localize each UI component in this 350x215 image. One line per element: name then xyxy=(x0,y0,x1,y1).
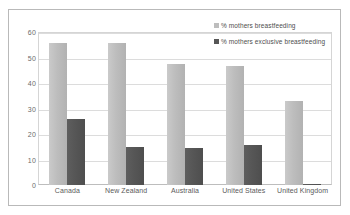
bar[interactable] xyxy=(167,64,185,185)
x-axis: CanadaNew ZealandAustraliaUnited StatesU… xyxy=(38,187,332,203)
x-axis-tick-label: United Kingdom xyxy=(277,187,328,194)
bar[interactable] xyxy=(108,43,126,185)
legend-swatch-icon-0 xyxy=(214,23,219,28)
y-axis-tick-label: 0 xyxy=(14,182,36,189)
x-axis-tick-label: United States xyxy=(222,187,265,194)
y-axis-tick-label: 20 xyxy=(14,131,36,138)
y-axis-tick-label: 50 xyxy=(14,54,36,61)
bar[interactable] xyxy=(49,43,67,185)
bar-group xyxy=(285,32,321,185)
y-axis-tick-label: 60 xyxy=(14,29,36,36)
bar-group xyxy=(226,32,262,185)
bar[interactable] xyxy=(67,119,85,185)
chart-legend: % mothers breastfeeding % mothers exclus… xyxy=(214,22,344,54)
bar[interactable] xyxy=(226,66,244,185)
legend-swatch-icon-1 xyxy=(214,39,219,44)
x-axis-tick-label: New Zealand xyxy=(105,187,147,194)
bar[interactable] xyxy=(303,184,321,185)
bar-group xyxy=(108,32,144,185)
bars-layer xyxy=(38,32,332,185)
bar[interactable] xyxy=(244,145,262,185)
y-axis-tick-label: 40 xyxy=(14,80,36,87)
y-axis-tick-label: 10 xyxy=(14,156,36,163)
y-axis: 0102030405060 xyxy=(9,32,36,185)
legend-label-0: % mothers breastfeeding xyxy=(221,22,296,29)
x-axis-tick-label: Canada xyxy=(55,187,80,194)
legend-item-1[interactable]: % mothers exclusive breastfeeding xyxy=(214,38,344,45)
legend-label-1: % mothers exclusive breastfeeding xyxy=(221,38,325,45)
x-axis-tick-label: Australia xyxy=(171,187,199,194)
bar[interactable] xyxy=(285,101,303,185)
bar[interactable] xyxy=(185,148,203,185)
bar[interactable] xyxy=(126,147,144,185)
bar-group xyxy=(49,32,85,185)
bar-group xyxy=(167,32,203,185)
y-axis-tick-label: 30 xyxy=(14,105,36,112)
chart-frame: 0102030405060 CanadaNew ZealandAustralia… xyxy=(8,9,341,206)
legend-item-0[interactable]: % mothers breastfeeding xyxy=(214,22,344,29)
